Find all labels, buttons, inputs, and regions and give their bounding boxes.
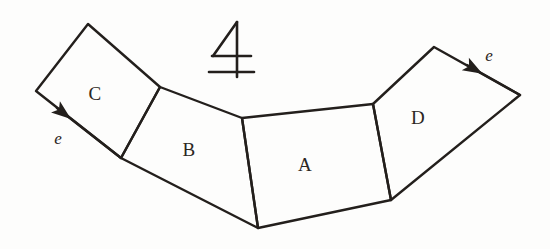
face-label-d: D xyxy=(411,107,425,129)
face-group xyxy=(36,24,520,228)
face-d xyxy=(373,47,520,200)
diagram-canvas xyxy=(0,0,550,249)
count-stroke-diagonal xyxy=(213,22,237,56)
face-label-a: A xyxy=(298,154,312,176)
arrow-right-e xyxy=(467,65,520,95)
face-a xyxy=(242,104,391,228)
polygon-unfolding-diagram: CBADee xyxy=(0,0,550,249)
face-label-b: B xyxy=(183,139,196,161)
arrow-group xyxy=(57,65,520,158)
arrow-left-e xyxy=(57,108,121,158)
edge-label-right-e: e xyxy=(485,46,493,66)
face-label-c: C xyxy=(89,83,102,105)
count-mark-strokes xyxy=(209,22,254,77)
edge-label-left-e: e xyxy=(54,129,62,149)
